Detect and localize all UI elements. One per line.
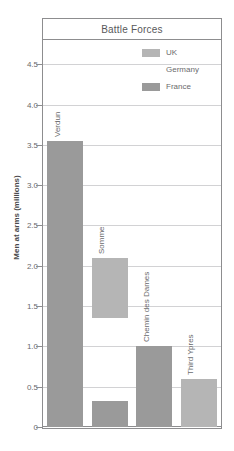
bar [92, 258, 128, 318]
legend-label-uk: UK [166, 48, 177, 57]
legend-swatch-france [142, 83, 160, 91]
y-tick-label-0: 0 [0, 423, 38, 432]
legend-label-germany: Germany [166, 65, 199, 74]
category-label: Third Ypres [186, 334, 195, 375]
category-label: Somme [97, 226, 106, 254]
y-tick-label-0.5: 0.5 [0, 382, 38, 391]
gridline-4.0 [43, 105, 221, 106]
bar [181, 379, 217, 427]
bar [136, 346, 172, 427]
legend-swatch-germany [142, 66, 160, 74]
legend-swatch-uk [142, 49, 160, 57]
y-tick-label-1.5: 1.5 [0, 302, 38, 311]
y-tick-label-1.0: 1.0 [0, 342, 38, 351]
chart-title-box: Battle Forces [42, 18, 222, 40]
y-tick-label-3.0: 3.0 [0, 181, 38, 190]
legend-item-uk: UK [142, 44, 218, 61]
chart-title: Battle Forces [101, 24, 163, 35]
legend-item-germany: Germany [142, 61, 218, 78]
y-tick-label-3.5: 3.5 [0, 140, 38, 149]
category-label: Chemin des Dames [142, 272, 151, 342]
chart-root: Battle Forces Men at arms (millions) 00.… [0, 0, 234, 451]
legend-label-france: France [166, 82, 191, 91]
y-tick-label-4.0: 4.0 [0, 100, 38, 109]
legend: UK Germany France [142, 44, 218, 95]
plot-area: VerdunSommeChemin des DamesThird Ypres [42, 40, 222, 429]
category-label: Verdun [53, 111, 62, 136]
y-tick-label-4.5: 4.5 [0, 60, 38, 69]
bar [92, 401, 128, 427]
bar [47, 141, 83, 427]
legend-item-france: France [142, 78, 218, 95]
y-tick-label-2.0: 2.0 [0, 261, 38, 270]
y-tick-label-2.5: 2.5 [0, 221, 38, 230]
